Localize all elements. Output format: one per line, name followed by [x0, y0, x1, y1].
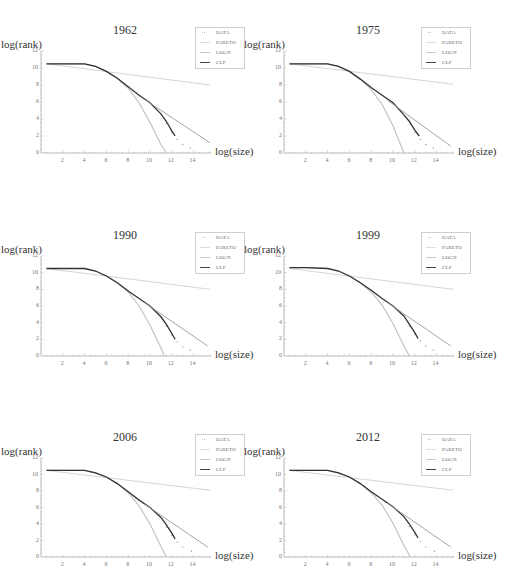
chart-title: 2012 — [356, 430, 380, 445]
chart-title: 1999 — [356, 228, 380, 243]
x-tick-label: 2 — [61, 157, 64, 163]
series-clp-tail — [388, 100, 451, 146]
series-logn — [290, 64, 404, 153]
x-tick-label: 2 — [61, 561, 64, 567]
legend: DATAPARETOLOGNCLP — [421, 232, 471, 274]
x-tick-label: 8 — [369, 157, 372, 163]
series-clp — [47, 470, 176, 538]
chart-panel-2006: 2006 log(rank) log(size) DATAPARETOLOGNC… — [0, 404, 260, 587]
legend-swatch-icon — [200, 267, 210, 268]
legend-label: CLP — [216, 58, 226, 68]
legend-item-clp: CLP — [196, 58, 244, 68]
legend-swatch-icon — [426, 247, 436, 248]
legend-item-pareto: PARETO — [196, 445, 244, 455]
chart-title: 1990 — [113, 228, 137, 243]
y-tick-label: 0 — [36, 149, 39, 155]
legend-label: PARETO — [442, 38, 462, 48]
legend-swatch-icon — [202, 32, 205, 33]
legend-swatch-icon — [202, 439, 205, 440]
x-tick-label: 12 — [411, 157, 417, 163]
series-logn — [47, 470, 167, 557]
legend-item-clp: CLP — [422, 465, 470, 475]
legend-item-data: DATA — [422, 435, 470, 445]
x-tick-label: 4 — [326, 157, 329, 163]
series-pareto — [47, 269, 211, 290]
y-tick-label: 0 — [279, 149, 282, 155]
x-tick-label: 2 — [304, 157, 307, 163]
series-clp-tail — [145, 303, 208, 346]
legend-swatch-icon — [202, 237, 205, 238]
y-tick-label: 8 — [36, 285, 39, 291]
x-tick-label: 4 — [326, 360, 329, 366]
series-logn — [290, 470, 411, 557]
x-tick-label: 6 — [104, 360, 107, 366]
chart-title: 1962 — [113, 23, 137, 38]
legend-label: DATA — [442, 28, 456, 38]
legend-label: CLP — [216, 263, 226, 273]
chart-panel-2012: 2012 log(rank) log(size) DATAPARETOLOGNC… — [243, 404, 503, 587]
legend-item-data: DATA — [196, 233, 244, 243]
legend-item-clp: CLP — [196, 465, 244, 475]
x-tick-label: 4 — [83, 157, 86, 163]
legend-item-logn: LOGN — [422, 48, 470, 58]
y-tick-label: 4 — [36, 319, 39, 325]
legend-swatch-icon — [200, 257, 210, 258]
x-tick-label: 4 — [83, 561, 86, 567]
legend-item-pareto: PARETO — [196, 243, 244, 253]
legend-item-clp: CLP — [196, 263, 244, 273]
legend-item-pareto: PARETO — [422, 445, 470, 455]
legend-label: LOGN — [442, 48, 457, 58]
x-tick-label: 8 — [126, 561, 129, 567]
chart-panel-1962: 1962 log(rank) log(size) DATAPARETOLOGNC… — [0, 0, 260, 200]
legend-label: PARETO — [442, 243, 462, 253]
legend-swatch-icon — [426, 42, 436, 43]
legend-label: DATA — [442, 435, 456, 445]
series-clp — [290, 470, 419, 538]
series-clp-tail — [145, 100, 210, 143]
legend-label: LOGN — [442, 455, 457, 465]
y-tick-label: 12 — [275, 454, 281, 460]
x-tick-label: 8 — [126, 360, 129, 366]
y-tick-label: 8 — [36, 487, 39, 493]
legend-swatch-icon — [426, 459, 436, 460]
legend-label: PARETO — [216, 243, 236, 253]
y-tick-label: 0 — [36, 352, 39, 358]
legend-swatch-icon — [428, 32, 431, 33]
y-tick-label: 0 — [36, 553, 39, 559]
x-tick-label: 14 — [433, 561, 439, 567]
y-tick-label: 4 — [36, 115, 39, 121]
x-tick-label: 6 — [347, 360, 350, 366]
y-tick-label: 4 — [36, 520, 39, 526]
x-tick-label: 12 — [168, 360, 174, 366]
legend: DATAPARETOLOGNCLP — [421, 434, 471, 476]
x-tick-label: 14 — [190, 360, 196, 366]
legend-swatch-icon — [428, 237, 431, 238]
x-tick-label: 4 — [326, 561, 329, 567]
legend-item-pareto: PARETO — [422, 38, 470, 48]
x-tick-label: 14 — [433, 157, 439, 163]
series-clp — [290, 268, 419, 339]
y-tick-label: 8 — [279, 285, 282, 291]
x-tick-label: 10 — [389, 360, 395, 366]
y-tick-label: 6 — [36, 504, 39, 510]
y-tick-label: 2 — [279, 335, 282, 341]
x-tick-label: 12 — [411, 561, 417, 567]
y-tick-label: 8 — [36, 81, 39, 87]
y-tick-label: 6 — [279, 98, 282, 104]
x-tick-label: 4 — [83, 360, 86, 366]
legend: DATAPARETOLOGNCLP — [195, 232, 245, 274]
legend-item-logn: LOGN — [422, 253, 470, 263]
y-tick-label: 0 — [279, 352, 282, 358]
y-tick-label: 4 — [279, 319, 282, 325]
y-tick-label: 2 — [36, 335, 39, 341]
legend-swatch-icon — [426, 469, 436, 470]
y-tick-label: 6 — [36, 98, 39, 104]
x-axis-label: log(size) — [458, 549, 496, 561]
legend: DATAPARETOLOGNCLP — [195, 434, 245, 476]
x-tick-label: 2 — [61, 360, 64, 366]
y-tick-label: 8 — [279, 487, 282, 493]
y-tick-label: 2 — [279, 132, 282, 138]
x-tick-label: 6 — [347, 561, 350, 567]
legend-item-data: DATA — [422, 233, 470, 243]
legend-label: CLP — [442, 263, 452, 273]
